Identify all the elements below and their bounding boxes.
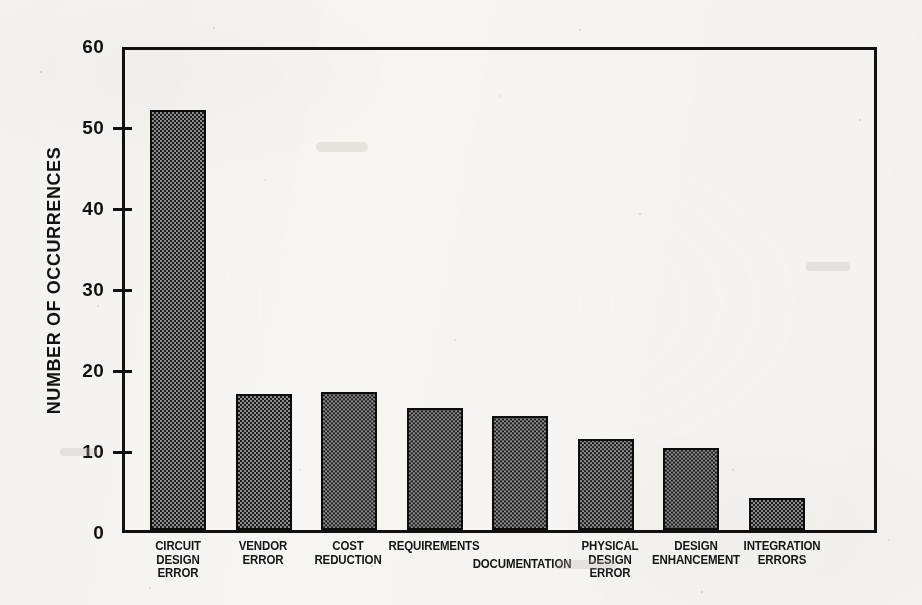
bar-chart: 0 10 20 30 40 50 60 NUMBER OF OCCURRENCE… [0, 0, 922, 605]
y-tick-label-10: 10 [62, 442, 104, 461]
chart-page: 0 10 20 30 40 50 60 NUMBER OF OCCURRENCE… [0, 0, 922, 605]
y-tick-label-40: 40 [62, 199, 104, 218]
x-axis-labels: CIRCUIT DESIGN ERRORVENDOR ERRORCOST RED… [0, 540, 922, 602]
bar-3 [407, 408, 463, 530]
y-tick-label-60: 60 [62, 37, 104, 56]
bar-7 [749, 498, 805, 530]
bar-6 [663, 448, 719, 530]
y-tick-label-50: 50 [62, 118, 104, 137]
y-axis-title: NUMBER OF OCCURRENCES [44, 131, 65, 431]
bar-0 [150, 110, 206, 530]
x-label-7: INTEGRATION ERRORS [725, 540, 839, 567]
bar-5 [578, 439, 634, 530]
x-label-0: CIRCUIT DESIGN ERROR [129, 540, 227, 581]
bar-1 [236, 394, 292, 530]
bars-layer [125, 50, 874, 530]
bar-2 [321, 392, 377, 530]
y-tick-label-30: 30 [62, 280, 104, 299]
x-label-3: REQUIREMENTS [370, 540, 499, 554]
y-tick-label-20: 20 [62, 361, 104, 380]
bar-4 [492, 416, 548, 530]
